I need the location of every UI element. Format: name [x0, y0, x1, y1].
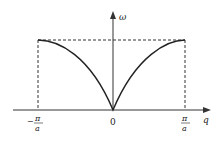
x-axis-arrow-icon — [203, 107, 211, 113]
svg-text:−: − — [27, 117, 34, 126]
svg-text:π: π — [34, 114, 41, 123]
neg-pi-over-a-label: − π a — [27, 114, 43, 133]
svg-text:a: a — [35, 124, 40, 133]
y-axis-arrow-icon — [110, 11, 116, 19]
origin-label: 0 — [110, 117, 116, 127]
omega-label: ω — [119, 12, 127, 22]
svg-text:π: π — [181, 114, 188, 123]
dispersion-curve — [38, 40, 185, 110]
dispersion-diagram: ω q 0 − π a π a — [0, 0, 221, 141]
pi-over-a-label: π a — [181, 114, 190, 133]
svg-text:a: a — [182, 124, 187, 133]
q-label: q — [203, 115, 209, 125]
